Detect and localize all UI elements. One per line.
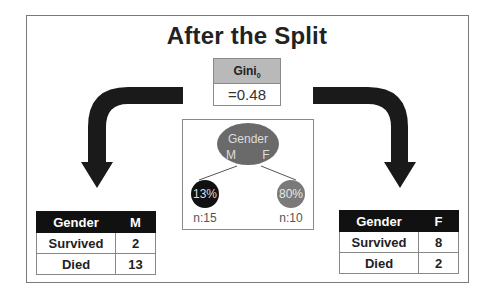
row-label: Died xyxy=(340,253,419,274)
row-value: 8 xyxy=(419,232,459,253)
row-value: 13 xyxy=(116,254,156,275)
row-value: 2 xyxy=(419,253,459,274)
row-label: Died xyxy=(37,254,116,275)
root-branch-f: F xyxy=(262,148,269,162)
header-cell: M xyxy=(116,212,156,233)
table-row: Died 2 xyxy=(340,253,459,274)
left-leaf-count: n:15 xyxy=(193,211,217,225)
right-arrow-icon xyxy=(313,87,416,188)
header-cell: Gender xyxy=(340,211,419,232)
row-value: 2 xyxy=(116,233,156,254)
table-row: Survived 8 xyxy=(340,232,459,253)
row-label: Survived xyxy=(340,232,419,253)
tree-graphic: Gender M F 13% 80% n:15 n:10 xyxy=(183,120,313,229)
table-header-row: Gender M xyxy=(37,212,156,233)
right-leaf-value: 80% xyxy=(279,187,303,201)
table-row: Survived 2 xyxy=(37,233,156,254)
right-leaf-count: n:10 xyxy=(279,211,303,225)
header-cell: F xyxy=(419,211,459,232)
decision-tree: Gender M F 13% 80% n:15 n:10 xyxy=(182,119,314,230)
table-header-row: Gender F xyxy=(340,211,459,232)
root-branch-m: M xyxy=(226,148,236,162)
left-arrow-icon xyxy=(81,87,183,188)
left-leaf-value: 13% xyxy=(193,187,217,201)
row-label: Survived xyxy=(37,233,116,254)
table-row: Died 13 xyxy=(37,254,156,275)
right-table: Gender F Survived 8 Died 2 xyxy=(339,210,459,274)
header-cell: Gender xyxy=(37,212,116,233)
root-label: Gender xyxy=(228,132,268,146)
left-table: Gender M Survived 2 Died 13 xyxy=(36,211,156,275)
